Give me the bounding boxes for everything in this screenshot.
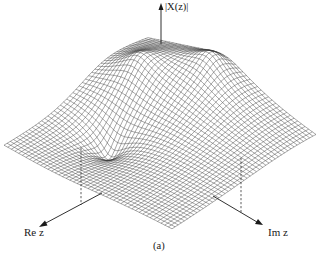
vertical-axis bbox=[159, 3, 164, 44]
surface-plot-figure: |X(z)| Re z Im z (a) bbox=[0, 0, 318, 254]
vertical-axis-label: |X(z)| bbox=[165, 1, 188, 12]
surface-mesh bbox=[0, 0, 318, 254]
arrow-imaginary-icon bbox=[255, 219, 263, 225]
imaginary-axis-label: Im z bbox=[268, 226, 288, 238]
wireframe-mesh bbox=[4, 38, 316, 229]
mesh-lines bbox=[4, 38, 316, 229]
real-axis-label: Re z bbox=[24, 226, 44, 238]
imaginary-axis bbox=[213, 158, 263, 225]
arrow-up-icon bbox=[159, 3, 164, 10]
figure-caption: (a) bbox=[153, 240, 165, 251]
